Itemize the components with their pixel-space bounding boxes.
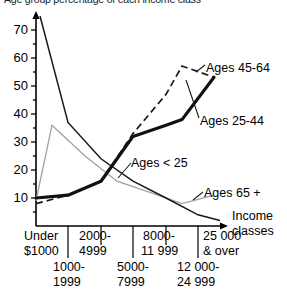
x-axis-title-line2: classes (232, 224, 274, 238)
x-label-2000-4999-line2: 4999 (79, 244, 107, 258)
x-label-1000-1999-line2: 1999 (53, 275, 81, 289)
x-label-5000-7999-line2: 7999 (117, 275, 145, 289)
y-tick-label-60: 60 (4, 50, 28, 65)
y-tick-label-70: 70 (4, 22, 28, 37)
y-axis (32, 11, 39, 226)
y-tick-label-20: 20 (4, 162, 28, 177)
x-label-2000-4999-line1: 2000- (79, 229, 111, 243)
x-label-12000-24999-line2: 24 999 (177, 275, 215, 289)
series-label-ages-65-plus: Ages 65 + (204, 186, 261, 200)
series-label-ages-under-25: Ages < 25 (131, 156, 188, 170)
line-chart: Age group percentage of each income clas… (0, 0, 287, 296)
x-label-1000-1999-line1: 1000- (53, 260, 85, 274)
series-line-ages-45-64 (36, 77, 214, 198)
y-tick-label-50: 50 (4, 78, 28, 93)
x-label-8000-11999-line2: 11 999 (141, 244, 178, 258)
x-label-12000-24999-line1: 12 000- (177, 260, 219, 274)
x-axis (36, 222, 228, 229)
x-label-8000-11999-line1: 8000- (143, 229, 175, 243)
series-label-ages-45-64: Ages 45-64 (206, 61, 270, 75)
y-tick-label-10: 10 (4, 190, 28, 205)
x-axis-title-line1: Income (232, 209, 273, 223)
y-tick-label-30: 30 (4, 134, 28, 149)
y-tick-label-40: 40 (4, 106, 28, 121)
series-line-ages-under-25 (40, 16, 220, 220)
x-label-5000-7999-line1: 5000- (117, 260, 149, 274)
series-label-ages-25-44: Ages 25-44 (200, 114, 264, 128)
x-label-25000-over-line2: & over (203, 244, 239, 258)
x-label-under-1000-line1: Under (24, 229, 58, 243)
x-label-under-1000-line2: $1000 (24, 244, 59, 258)
